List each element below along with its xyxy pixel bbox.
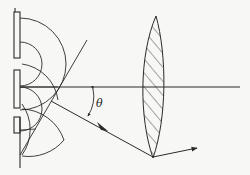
grating-plate-bottom <box>14 117 20 133</box>
slit-rays <box>20 87 58 130</box>
diffraction-diagram: θ <box>0 0 250 175</box>
refracted-ray <box>153 148 197 157</box>
angle-label: θ <box>96 97 103 110</box>
diffracted-ray-arrowhead <box>97 122 108 131</box>
grating-plate-middle <box>14 70 20 108</box>
angle-arc <box>88 89 94 116</box>
wavefront-arc-large-top <box>20 18 66 110</box>
diffracted-wavefront-line <box>20 40 87 155</box>
wavefront-arc-middle-upper <box>22 64 58 100</box>
grating-plates <box>14 8 20 168</box>
grating-plate-top <box>14 12 20 58</box>
